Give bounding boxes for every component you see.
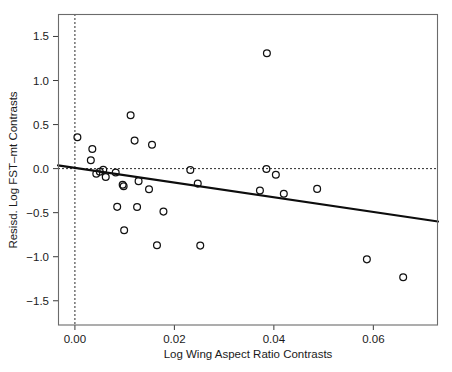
chart-background [0,0,452,372]
y-tick-label: 1.0 [33,75,49,87]
x-tick-label: 0.02 [163,333,185,345]
x-tick-label: 0.06 [362,333,384,345]
x-axis-title: Log Wing Aspect Ratio Contrasts [164,348,333,360]
y-tick-label: −0.5 [26,207,49,219]
x-tick-label: 0.04 [263,333,286,345]
y-tick-label: −1.5 [26,295,49,307]
y-tick-label: 1.5 [33,30,49,42]
chart-canvas: 0.000.020.040.061.51.00.50.0−0.5−1.0−1.5… [0,0,452,372]
y-axis-title: Resisd. Log FST–mt Contrasts [7,91,19,248]
scatter-plot-figure: 0.000.020.040.061.51.00.50.0−0.5−1.0−1.5… [0,0,452,372]
y-tick-label: 0.5 [33,119,49,131]
y-tick-label: −1.0 [26,251,49,263]
x-tick-label: 0.00 [64,333,86,345]
y-tick-label: 0.0 [33,163,49,175]
